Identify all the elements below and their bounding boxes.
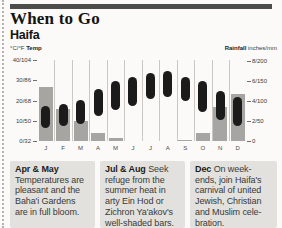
temp-tick-mark (33, 141, 37, 142)
month-gridline (159, 60, 160, 141)
rain-bar (74, 121, 88, 141)
rain-tick-label: 2/50 (252, 118, 264, 124)
temp-tick-mark (33, 121, 37, 122)
temp-range-pill (111, 81, 120, 109)
temp-range-pill (76, 100, 85, 124)
temp-tick-label: 40/104 (0, 57, 31, 63)
month-label: F (54, 145, 71, 152)
month-label: O (194, 145, 211, 152)
temp-range-pill (128, 77, 137, 105)
rain-tick-mark (247, 141, 251, 142)
month-label: J (124, 145, 141, 152)
note-body: Temperatures are pleasant and the Baha'i… (15, 175, 84, 217)
rain-tick-label: 0 (252, 138, 255, 144)
rain-tick-mark (247, 61, 251, 62)
month-gridline (124, 60, 125, 141)
note-lead: Jul & Aug (105, 164, 148, 174)
temp-tick-label: 0/32 (0, 138, 31, 144)
month-label: A (159, 145, 176, 152)
note-dec: Dec On week- ends, join Haifa's carnival… (190, 161, 277, 228)
temp-range-pill (216, 91, 225, 119)
rain-bar (109, 138, 123, 141)
temp-tick-label: 10/50 (0, 118, 31, 124)
rain-tick-mark (247, 101, 251, 102)
temp-range-pill (41, 106, 50, 128)
month-label: N (212, 145, 229, 152)
temp-range-pill (146, 73, 155, 99)
note-lead: Dec (195, 164, 214, 174)
month-gridline (194, 60, 195, 141)
guidebook-when-to-go-panel: When to Go Haifa °C/°F Temp Rainfall inc… (0, 0, 282, 228)
temp-range-pill (198, 81, 207, 111)
month-label: J (142, 145, 159, 152)
note-jul-aug: Jul & Aug Seek refuge from the summer he… (100, 161, 185, 228)
temp-range-pill (59, 104, 68, 126)
month-label: M (107, 145, 124, 152)
temp-range-pill (94, 89, 103, 115)
rain-bar (196, 133, 210, 141)
temp-tick-label: 30/86 (0, 77, 31, 83)
temp-tick-label: 20/68 (0, 98, 31, 104)
climate-chart: 40/10430/8620/6810/500/328/2006/1504/100… (0, 0, 282, 160)
temp-range-pill (163, 71, 172, 97)
temp-tick-mark (33, 101, 37, 102)
month-label: D (229, 145, 246, 152)
rain-tick-label: 8/200 (252, 58, 267, 64)
rain-tick-mark (247, 81, 251, 82)
temp-range-pill (233, 97, 242, 125)
month-gridline (177, 60, 178, 141)
rain-tick-label: 6/150 (252, 78, 267, 84)
rain-tick-mark (247, 121, 251, 122)
rain-bar (178, 140, 192, 141)
month-label: M (72, 145, 89, 152)
temp-tick-mark (33, 60, 37, 61)
rain-bar (91, 133, 105, 141)
month-gridline (142, 60, 143, 141)
month-gridline (107, 60, 108, 141)
rain-tick-label: 4/100 (252, 98, 267, 104)
month-label: S (177, 145, 194, 152)
temp-range-pill (181, 77, 190, 101)
month-label: A (89, 145, 106, 152)
note-lead: Apr & May (15, 164, 59, 174)
month-label: J (37, 145, 54, 152)
month-gridline (89, 60, 90, 141)
note-apr-may: Apr & May Temperatures are pleasant and … (10, 161, 95, 228)
temp-tick-mark (33, 80, 37, 81)
